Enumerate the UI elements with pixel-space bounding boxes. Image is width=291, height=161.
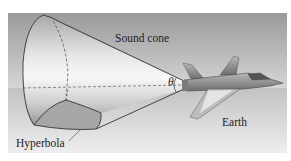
theta-label: θ [168,77,174,89]
sound-cone-label: Sound cone [115,33,169,45]
diagram-panel: Sound cone θ Hyperbola Earth [8,13,287,153]
hyperbola-label: Hyperbola [16,138,65,150]
earth-label: Earth [222,117,247,129]
